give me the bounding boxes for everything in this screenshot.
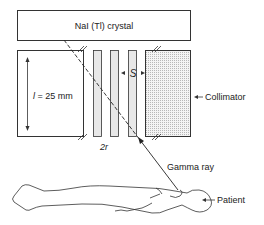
right-collimator-block (146, 46, 191, 140)
length-label: l = 25 mm (33, 91, 73, 101)
patient-callout: Patient (202, 195, 246, 205)
collimator-label: Collimator (205, 92, 246, 102)
gamma-label: Gamma ray (167, 162, 215, 172)
patient-label: Patient (217, 195, 246, 205)
nai-crystal: NaI (Tl) crystal (18, 11, 191, 41)
hole-label: 2r (99, 142, 109, 152)
spacing-dimension: S (121, 68, 145, 79)
patient-figure (13, 185, 212, 214)
collimator-callout: Collimator (194, 92, 246, 102)
septa (94, 51, 137, 137)
crystal-label: NaI (Tl) crystal (75, 21, 134, 31)
spacing-label: S (130, 68, 137, 79)
gamma-ray: Gamma ray (138, 137, 215, 190)
collimator-diagram: NaI (Tl) crystal l = 25 mm S Collimator (0, 0, 264, 225)
